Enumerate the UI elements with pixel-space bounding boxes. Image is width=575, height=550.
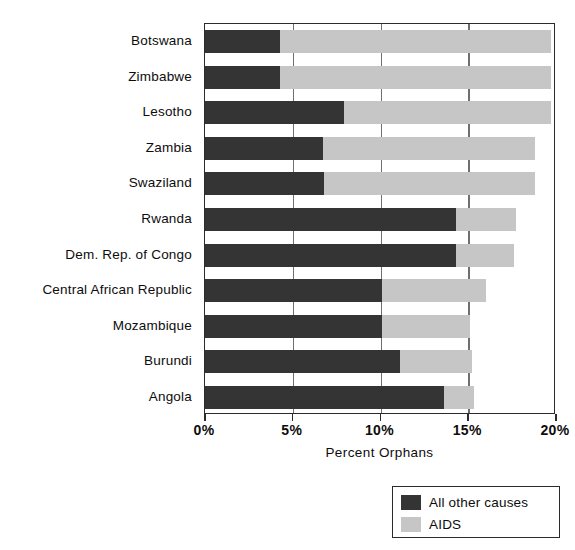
bar-segment-other-causes: [205, 66, 280, 89]
bar-row: [205, 386, 474, 409]
bar-row: [205, 30, 551, 53]
category-label: Zimbabwe: [0, 70, 192, 84]
category-label: Mozambique: [0, 319, 192, 333]
category-axis: BotswanaZimbabweLesothoZambiaSwazilandRw…: [0, 24, 198, 414]
x-tick-mark: [292, 414, 294, 421]
bar-segment-other-causes: [205, 386, 444, 409]
x-tick-label: 0%: [176, 422, 232, 438]
bar-row: [205, 66, 551, 89]
x-tick-label: 10%: [352, 422, 408, 438]
category-label: Zambia: [0, 141, 192, 155]
bar-segment-aids: [444, 386, 474, 409]
bar-segment-aids: [280, 30, 550, 53]
bar-row: [205, 350, 472, 373]
bar-segment-aids: [456, 208, 516, 231]
x-tick-mark: [467, 414, 469, 421]
x-tick-mark: [380, 414, 382, 421]
bar-segment-other-causes: [205, 279, 382, 302]
value-axis: 0%5%10%15%20%: [204, 414, 555, 444]
orphans-stacked-bar-chart: BotswanaZimbabweLesothoZambiaSwazilandRw…: [0, 0, 575, 550]
bar-segment-aids: [344, 101, 551, 124]
legend-entry: All other causes: [401, 492, 559, 513]
legend-swatch-icon: [401, 495, 421, 510]
bar-segment-other-causes: [205, 101, 344, 124]
bar-row: [205, 279, 486, 302]
x-tick-mark: [555, 414, 557, 421]
legend-swatch-icon: [401, 517, 421, 532]
bar-segment-other-causes: [205, 172, 324, 195]
bar-segment-other-causes: [205, 208, 456, 231]
bar-segment-aids: [456, 244, 514, 267]
x-tick-label: 5%: [264, 422, 320, 438]
chart-legend: All other causesAIDS: [392, 486, 560, 538]
bar-segment-other-causes: [205, 30, 280, 53]
x-tick-label: 20%: [527, 422, 575, 438]
legend-label: All other causes: [429, 495, 528, 510]
bar-segment-aids: [382, 279, 486, 302]
bar-segment-other-causes: [205, 244, 456, 267]
category-label: Rwanda: [0, 212, 192, 226]
bar-row: [205, 137, 535, 160]
category-label: Lesotho: [0, 105, 192, 119]
bar-row: [205, 101, 551, 124]
x-tick-label: 15%: [439, 422, 495, 438]
bar-segment-aids: [400, 350, 472, 373]
bar-row: [205, 172, 535, 195]
category-label: Central African Republic: [0, 283, 192, 297]
bar-row: [205, 315, 470, 338]
bar-segment-other-causes: [205, 350, 400, 373]
bar-segment-aids: [323, 137, 535, 160]
bar-segment-other-causes: [205, 315, 382, 338]
x-axis-title: Percent Orphans: [204, 445, 555, 460]
bar-segment-other-causes: [205, 137, 323, 160]
category-label: Botswana: [0, 34, 192, 48]
bar-segment-aids: [280, 66, 550, 89]
plot-area: [204, 23, 555, 414]
category-label: Swaziland: [0, 176, 192, 190]
bar-row: [205, 244, 514, 267]
category-label: Dem. Rep. of Congo: [0, 248, 192, 262]
legend-entry: AIDS: [401, 514, 559, 535]
category-label: Burundi: [0, 354, 192, 368]
legend-label: AIDS: [429, 517, 461, 532]
category-label: Angola: [0, 390, 192, 404]
x-tick-mark: [204, 414, 206, 421]
bar-row: [205, 208, 516, 231]
bar-segment-aids: [324, 172, 535, 195]
bar-segment-aids: [382, 315, 470, 338]
